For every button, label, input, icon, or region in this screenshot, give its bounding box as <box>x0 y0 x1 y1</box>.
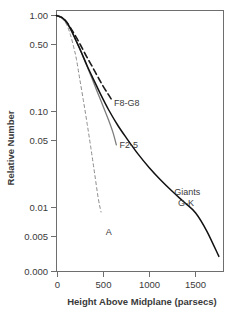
x-tick-label: 500 <box>96 279 112 290</box>
chart-figure: 1.00 0.50 0.10 0.05 0.01 0.005 0.000 0 5… <box>0 0 232 320</box>
y-axis-title: Relative Number <box>5 110 16 185</box>
y-tick-label: 0.05 <box>30 135 49 146</box>
annotation-f2-5: F2-5 <box>120 140 139 150</box>
y-tick-label: 0.01 <box>30 202 49 213</box>
annotation-g-k: G-K <box>178 198 194 208</box>
y-tick-label: 0.10 <box>30 106 49 117</box>
y-tick-label: 0.000 <box>24 266 48 277</box>
x-tick-label: 1500 <box>185 279 206 290</box>
x-tick-label: 0 <box>55 279 60 290</box>
x-tick-label: 1000 <box>139 279 160 290</box>
stellar-distribution-chart: 1.00 0.50 0.10 0.05 0.01 0.005 0.000 0 5… <box>0 0 232 320</box>
annotation-a: A <box>106 227 112 237</box>
annotation-giants: Giants <box>174 187 201 197</box>
annotation-f8-g8: F8-G8 <box>114 98 140 108</box>
y-tick-label: 0.50 <box>30 39 49 50</box>
y-tick-label: 1.00 <box>30 10 49 21</box>
x-axis-title: Height Above Midplane (parsecs) <box>67 296 217 307</box>
y-tick-label: 0.005 <box>24 231 48 242</box>
